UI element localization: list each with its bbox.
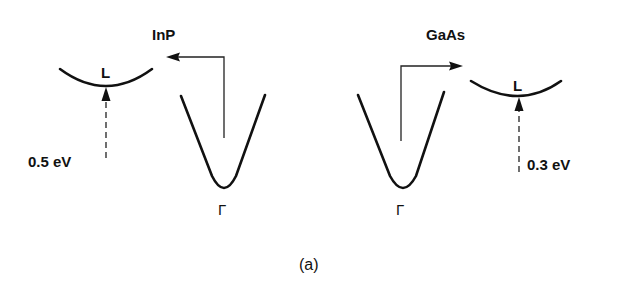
gaas-energy-separation-label: 0.3 eV — [527, 156, 570, 173]
gaas-energy-arrowhead-icon — [515, 97, 524, 111]
inp-gamma-valley-label: Γ — [218, 201, 226, 218]
gaas-l-valley-label: L — [513, 77, 522, 94]
gaas-panel: GaAs Γ L 0.3 eV — [358, 26, 570, 218]
band-structure-diagram: InP L 0.5 eV Γ GaAs Γ L 0.3 eV (a) — [0, 0, 621, 293]
figure-caption: (a) — [299, 256, 319, 273]
inp-energy-arrowhead-icon — [102, 87, 111, 101]
gaas-transfer-arrowhead-icon — [449, 62, 463, 71]
inp-gamma-valley-curve — [181, 95, 265, 188]
inp-material-label: InP — [152, 26, 175, 43]
inp-panel: InP L 0.5 eV Γ — [28, 26, 265, 218]
gaas-material-label: GaAs — [426, 26, 465, 43]
gaas-transfer-arrow-line — [401, 66, 452, 141]
gaas-gamma-valley-label: Γ — [396, 201, 404, 218]
inp-energy-separation-label: 0.5 eV — [28, 153, 71, 170]
inp-transfer-arrowhead-icon — [166, 53, 180, 62]
inp-transfer-arrow-line — [176, 57, 224, 138]
inp-l-valley-label: L — [101, 64, 110, 81]
